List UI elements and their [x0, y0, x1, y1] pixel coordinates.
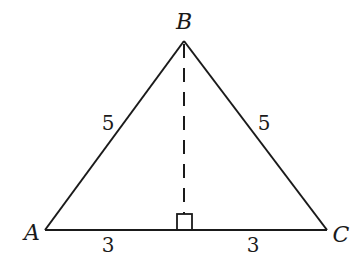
- length-label-ab: 5: [102, 111, 115, 135]
- vertex-label-a: A: [22, 220, 40, 245]
- length-label-bc: 5: [258, 111, 271, 135]
- length-label-foot-c: 3: [247, 233, 260, 257]
- length-label-a-foot: 3: [102, 233, 115, 257]
- side-bc: [184, 41, 327, 230]
- vertex-label-b: B: [175, 9, 192, 34]
- side-ab: [45, 41, 184, 230]
- vertex-label-c: C: [333, 222, 350, 247]
- diagram-svg: B A C 5 5 3 3: [0, 0, 364, 264]
- triangle-diagram: B A C 5 5 3 3: [0, 0, 364, 264]
- right-angle-marker-icon: [177, 214, 192, 230]
